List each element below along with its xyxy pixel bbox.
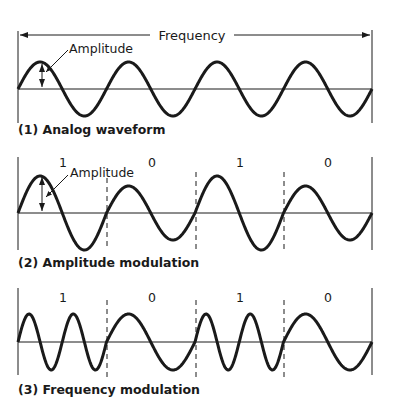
bit-label: 1 — [236, 155, 244, 170]
caption-am: (2) Amplitude modulation — [18, 255, 199, 270]
caption-analog: (1) Analog waveform — [18, 122, 165, 137]
amplitude-label: Amplitude — [70, 165, 134, 180]
frequency-label: Frequency — [158, 28, 225, 43]
panel-amplitude-modulation: 1 0 1 0 Amplitude (2) Amplitude modulati… — [18, 155, 372, 270]
bit-label: 0 — [148, 155, 156, 170]
panel-analog-waveform: Frequency Amplitude (1) Analog waveform — [18, 28, 372, 137]
bit-label: 0 — [148, 290, 156, 305]
amplitude-pointer — [46, 50, 68, 72]
bit-label: 0 — [324, 155, 332, 170]
panel-frequency-modulation: 1 0 1 0 (3) Frequency modulation — [18, 288, 372, 397]
bit-label: 0 — [324, 290, 332, 305]
caption-fm: (3) Frequency modulation — [18, 382, 200, 397]
bit-label: 1 — [236, 290, 244, 305]
modulation-diagram: Frequency Amplitude (1) Analog waveform … — [0, 0, 395, 413]
bit-label: 1 — [59, 290, 67, 305]
bit-label: 1 — [59, 155, 67, 170]
amplitude-label: Amplitude — [69, 41, 133, 56]
